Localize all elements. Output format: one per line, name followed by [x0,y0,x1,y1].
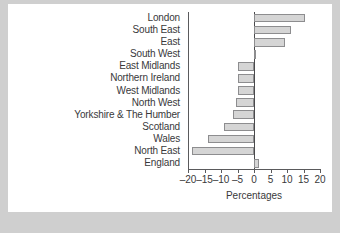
x-axis-tick [188,169,189,173]
x-axis-tick [238,169,239,173]
x-axis-tick-label: –20 [180,174,197,185]
category-label: East [8,36,184,48]
x-axis-tick [221,169,222,173]
bar-row [188,85,320,97]
category-label: East Midlands [8,60,184,72]
x-axis-tick-label: 20 [314,174,325,185]
bar [208,135,254,144]
bar-row [188,97,320,109]
bar [238,86,254,95]
category-label: England [8,157,184,169]
bar-row [188,121,320,133]
bar [254,14,305,23]
category-label: West Midlands [8,85,184,97]
figure-caption [8,216,332,230]
figure-card: LondonSouth EastEastSouth WestEast Midla… [8,4,332,212]
x-axis-tick-label: –15 [196,174,213,185]
x-axis-tick [271,169,272,173]
bar [192,147,254,156]
bar-row [188,60,320,72]
bar [238,62,254,71]
x-axis-tick-label: –5 [232,174,243,185]
x-axis-tick [320,169,321,173]
plot-area [188,12,320,169]
category-label: London [8,12,184,24]
bar [254,38,285,47]
x-axis-tick-label: 0 [251,174,257,185]
x-axis-tick-label: 10 [281,174,292,185]
bar-row [188,12,320,24]
category-label: North East [8,145,184,157]
bar-row [188,73,320,85]
bar [238,74,254,83]
x-axis-line: –20–15–10–505101520 [188,169,320,170]
x-axis-title: Percentages [188,190,320,201]
x-axis-tick [205,169,206,173]
screenshot-root: LondonSouth EastEastSouth WestEast Midla… [0,0,340,233]
bar-row [188,36,320,48]
category-axis-labels: LondonSouth EastEastSouth WestEast Midla… [8,12,184,169]
bar [254,50,256,59]
bar-row [188,133,320,145]
category-label: Scotland [8,121,184,133]
bar-row [188,24,320,36]
x-axis-tick [304,169,305,173]
bar-row [188,109,320,121]
bar [254,159,259,168]
bar-row [188,48,320,60]
category-label: Yorkshire & The Humber [8,109,184,121]
bar [224,123,254,132]
category-label: Wales [8,133,184,145]
x-axis-tick-label: 5 [268,174,274,185]
bar-chart: LondonSouth EastEastSouth WestEast Midla… [8,4,332,212]
bar [254,26,291,35]
category-label: Northern Ireland [8,72,184,84]
bar-row [188,145,320,157]
x-axis-tick-label: 15 [298,174,309,185]
category-label: North West [8,97,184,109]
x-axis-tick [254,169,255,173]
x-axis-tick-label: –10 [213,174,230,185]
category-label: South West [8,48,184,60]
bar [233,110,254,119]
bar [236,98,254,107]
bar-row [188,157,320,169]
x-axis-tick [287,169,288,173]
category-label: South East [8,24,184,36]
